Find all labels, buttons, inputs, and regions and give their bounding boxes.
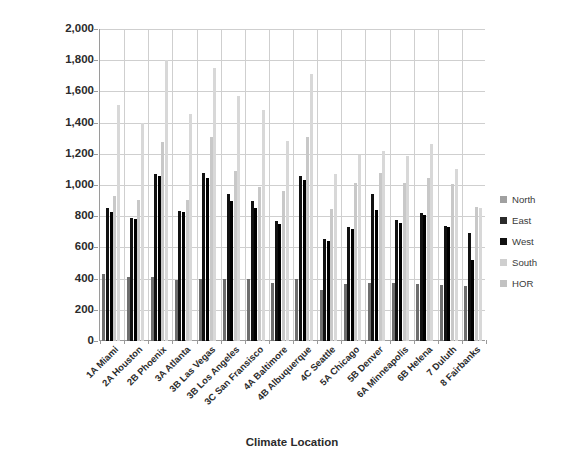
- bar-group: [147, 29, 171, 341]
- legend-label: South: [512, 257, 537, 268]
- y-tick-mark: [94, 123, 98, 124]
- bar-hor: [237, 96, 240, 341]
- y-tick-mark: [94, 341, 98, 342]
- x-axis-category-labels: 1A Miami2A Houston2B Phoenix3A Atlanta3B…: [99, 345, 485, 425]
- legend-swatch-icon: [500, 196, 507, 203]
- bar-east: [178, 211, 181, 341]
- bar-east: [347, 227, 350, 341]
- bar-group: [99, 29, 123, 341]
- bar-south: [234, 171, 237, 341]
- bar-group: [123, 29, 147, 341]
- bar-group: [437, 29, 461, 341]
- bar-east: [154, 174, 157, 341]
- legend-item-hor[interactable]: HOR: [500, 273, 566, 294]
- y-tick-label: 1,800: [42, 53, 94, 65]
- legend-label: West: [512, 236, 534, 247]
- bar-north: [102, 274, 105, 341]
- y-tick-label: 600: [42, 240, 94, 252]
- bar-west: [303, 180, 306, 341]
- bar-hor: [189, 114, 192, 341]
- bar-west: [158, 176, 161, 341]
- y-tick-label: 1,200: [42, 147, 94, 159]
- y-tick-mark: [94, 247, 98, 248]
- legend-item-north[interactable]: North: [500, 189, 566, 210]
- bar-group: [220, 29, 244, 341]
- bar-hor: [358, 155, 361, 341]
- bar-hor: [117, 105, 120, 341]
- y-tick-mark: [94, 29, 98, 30]
- bar-group: [364, 29, 388, 341]
- bar-south: [379, 173, 382, 341]
- y-tick-mark: [94, 279, 98, 280]
- legend-label: North: [512, 194, 535, 205]
- legend-swatch-icon: [500, 280, 507, 287]
- bar-east: [420, 213, 423, 341]
- bar-south: [161, 142, 164, 341]
- bar-hor: [382, 151, 385, 341]
- bar-east: [130, 218, 133, 341]
- bar-east: [444, 226, 447, 341]
- bar-hor: [165, 60, 168, 341]
- bar-group: [196, 29, 220, 341]
- bar-hor: [286, 141, 289, 341]
- bar-hor: [141, 123, 144, 341]
- legend-item-east[interactable]: East: [500, 210, 566, 231]
- y-tick-label: 400: [42, 272, 94, 284]
- bar-group: [244, 29, 268, 341]
- y-tick-label: 1,600: [42, 84, 94, 96]
- y-tick-mark: [94, 60, 98, 61]
- y-tick-mark: [94, 154, 98, 155]
- legend-label: HOR: [512, 278, 533, 289]
- y-tick-mark: [94, 185, 98, 186]
- bar-south: [427, 178, 430, 341]
- bar-group: [268, 29, 292, 341]
- bar-group: [413, 29, 437, 341]
- bar-south: [113, 196, 116, 341]
- bar-west: [110, 212, 113, 341]
- bar-east: [395, 220, 398, 341]
- legend-swatch-icon: [500, 259, 507, 266]
- legend-swatch-icon: [500, 238, 507, 245]
- bar-east: [371, 194, 374, 341]
- chart-legend: NorthEastWestSouthHOR: [500, 189, 566, 294]
- bar-hor: [213, 68, 216, 341]
- bar-group: [340, 29, 364, 341]
- y-tick-label: 1,000: [42, 178, 94, 190]
- y-tick-label: 1,400: [42, 116, 94, 128]
- legend-item-south[interactable]: South: [500, 252, 566, 273]
- bar-group: [389, 29, 413, 341]
- bar-west: [254, 208, 257, 341]
- bar-groups: [99, 29, 485, 341]
- y-tick-mark: [94, 310, 98, 311]
- bar-west: [230, 201, 233, 341]
- bar-west: [206, 178, 209, 341]
- bar-group: [461, 29, 485, 341]
- y-tick-mark: [94, 91, 98, 92]
- y-tick-label: 2,000: [42, 22, 94, 34]
- solar-radiation-bar-chart: Solar Radiation - Btu/ft2-day 0200400600…: [0, 0, 568, 467]
- bar-east: [227, 194, 230, 341]
- bar-group: [171, 29, 195, 341]
- legend-item-west[interactable]: West: [500, 231, 566, 252]
- y-axis-ticks: 02004006008001,0001,2001,4001,6001,8002,…: [36, 29, 94, 341]
- x-axis-title: Climate Location: [99, 436, 485, 448]
- bar-south: [210, 137, 213, 341]
- bar-hor: [430, 144, 433, 341]
- y-tick-label: 0: [42, 334, 94, 346]
- bar-hor: [262, 110, 265, 341]
- bar-east: [275, 221, 278, 341]
- legend-label: East: [512, 215, 531, 226]
- y-tick-label: 800: [42, 209, 94, 221]
- y-tick-label: 200: [42, 303, 94, 315]
- legend-swatch-icon: [500, 217, 507, 224]
- y-tick-mark: [94, 216, 98, 217]
- bar-east: [106, 208, 109, 341]
- bar-south: [451, 184, 454, 341]
